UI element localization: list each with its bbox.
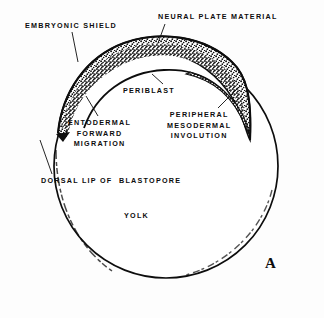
label-entodermal-forward-migration: ENTODERMAL FORWARD MIGRATION — [68, 118, 131, 150]
label-dorsal-lip-of-blastopore: DORSAL LIP OF BLASTOPORE — [41, 176, 181, 187]
panel-letter: A — [265, 255, 276, 272]
label-periblast: PERIBLAST — [123, 86, 175, 97]
label-yolk: YOLK — [124, 211, 149, 222]
leader-embryonic-shield — [72, 32, 78, 62]
label-peripheral-mesodermal-involution: PERIPHERAL MESODERMAL INVOLUTION — [167, 110, 231, 142]
embryology-diagram: EMBRYONIC SHIELD NEURAL PLATE MATERIAL P… — [0, 0, 324, 318]
leader-dorsal-lip — [40, 140, 52, 174]
label-neural-plate-material: NEURAL PLATE MATERIAL — [158, 12, 278, 23]
label-embryonic-shield: EMBRYONIC SHIELD — [25, 21, 117, 32]
